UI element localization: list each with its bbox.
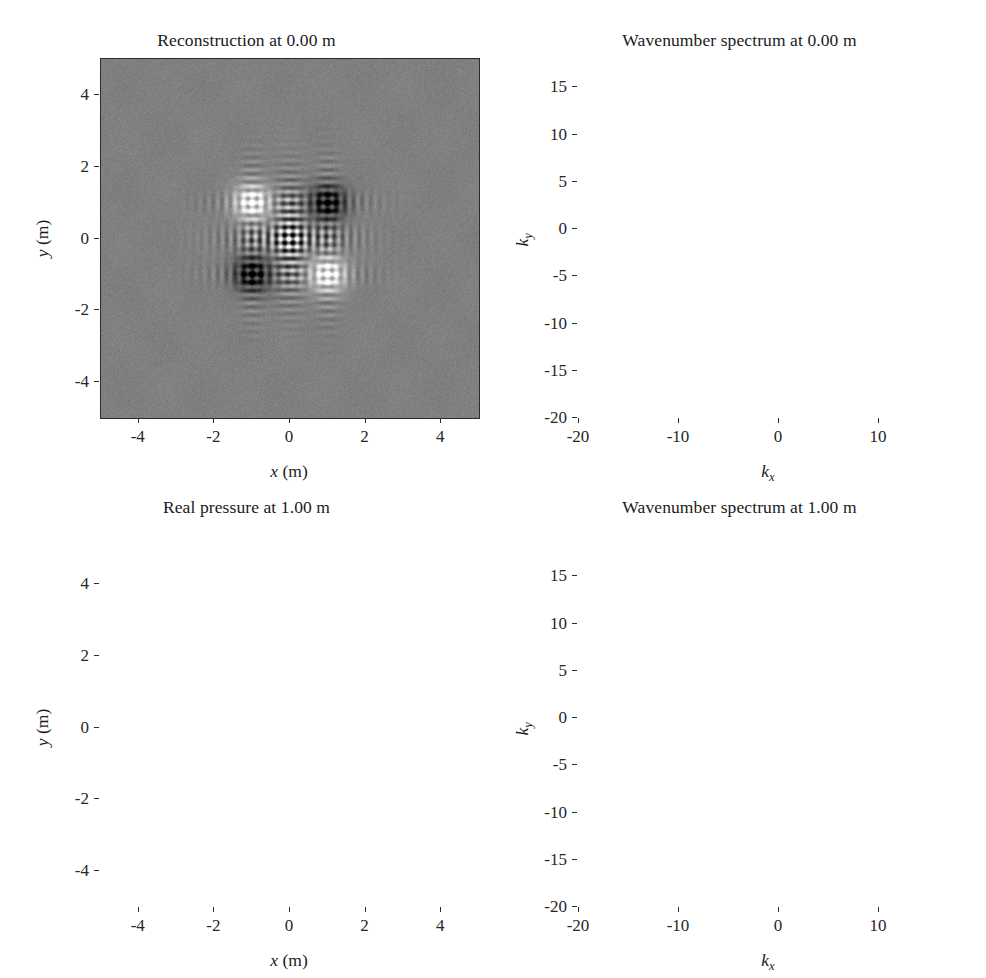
y-tick-mark: [572, 370, 577, 371]
panel-real-pressure-1m: Real pressure at 1.00 m: [0, 489, 493, 978]
x-tick-mark: [678, 418, 679, 423]
x-tick-mark: [578, 907, 579, 912]
panel-reconstruction-0m: Reconstruction at 0.00 m: [0, 0, 493, 489]
y-axis-label: y (m): [32, 218, 53, 258]
y-tick-label: -4: [75, 373, 89, 390]
x-tick-mark: [289, 418, 290, 423]
x-tick-mark: [365, 418, 366, 423]
y-tick-label: 15: [550, 78, 567, 95]
y-tick-label: 0: [81, 718, 90, 735]
x-tick-mark: [578, 418, 579, 423]
y-tick-mark: [572, 275, 577, 276]
y-tick-mark: [94, 94, 99, 95]
x-tick-mark: [678, 907, 679, 912]
x-tick-label: 0: [774, 428, 783, 445]
y-tick-label: 4: [81, 574, 90, 591]
y-tick-mark: [94, 166, 99, 167]
y-tick-label: 0: [81, 229, 90, 246]
figure-root: Reconstruction at 0.00 m Wavenumber spec…: [0, 0, 986, 978]
x-tick-mark: [878, 907, 879, 912]
panel-title: Wavenumber spectrum at 0.00 m: [493, 30, 986, 50]
x-tick-mark: [440, 418, 441, 423]
y-tick-label: -2: [75, 790, 89, 807]
y-tick-mark: [572, 134, 577, 135]
image-axes-reconstruction-0m: [100, 58, 480, 419]
x-axis-label: kx: [578, 950, 958, 974]
y-tick-label: -4: [75, 862, 89, 879]
x-tick-label: -2: [206, 917, 220, 934]
y-tick-mark: [572, 906, 577, 907]
y-tick-mark: [94, 381, 99, 382]
x-tick-label: -4: [131, 917, 145, 934]
x-tick-mark: [213, 418, 214, 423]
y-tick-mark: [94, 798, 99, 799]
y-tick-label: 15: [550, 567, 567, 584]
y-tick-label: 0: [559, 220, 568, 237]
x-tick-mark: [138, 418, 139, 423]
y-tick-mark: [94, 309, 99, 310]
panel-title: Reconstruction at 0.00 m: [0, 30, 493, 50]
y-tick-label: 5: [559, 661, 568, 678]
y-tick-mark: [572, 859, 577, 860]
x-axis-label: x (m): [100, 950, 478, 971]
x-tick-label: -20: [567, 428, 590, 445]
y-tick-mark: [572, 323, 577, 324]
y-tick-mark: [572, 764, 577, 765]
y-tick-label: 0: [559, 709, 568, 726]
y-tick-label: 5: [559, 172, 568, 189]
y-tick-mark: [94, 583, 99, 584]
y-tick-mark: [572, 86, 577, 87]
y-tick-mark: [572, 717, 577, 718]
y-tick-label: -10: [544, 803, 567, 820]
x-tick-label: -2: [206, 428, 220, 445]
x-tick-label: -20: [567, 917, 590, 934]
y-tick-mark: [94, 655, 99, 656]
x-tick-label: 0: [774, 917, 783, 934]
y-tick-label: 10: [550, 125, 567, 142]
x-tick-label: 4: [436, 917, 445, 934]
x-tick-label: 2: [360, 917, 369, 934]
y-axis-label: ky: [512, 708, 536, 748]
x-tick-mark: [289, 907, 290, 912]
y-tick-label: -15: [544, 850, 567, 867]
x-tick-mark: [440, 907, 441, 912]
x-axis-label: x (m): [100, 461, 478, 482]
x-tick-label: 2: [360, 428, 369, 445]
y-tick-label: -20: [544, 898, 567, 915]
x-tick-mark: [778, 907, 779, 912]
y-tick-label: 10: [550, 614, 567, 631]
y-tick-label: -5: [553, 756, 567, 773]
y-tick-label: 2: [81, 646, 90, 663]
x-tick-label: -10: [667, 917, 690, 934]
x-tick-label: 0: [285, 917, 294, 934]
y-tick-mark: [94, 870, 99, 871]
x-tick-mark: [138, 907, 139, 912]
y-tick-mark: [572, 417, 577, 418]
y-tick-label: -10: [544, 314, 567, 331]
x-tick-label: -4: [131, 428, 145, 445]
y-tick-label: -2: [75, 301, 89, 318]
y-tick-label: -5: [553, 267, 567, 284]
heatmap-image: [101, 59, 479, 418]
y-tick-label: -15: [544, 361, 567, 378]
x-tick-mark: [778, 418, 779, 423]
x-tick-label: 10: [870, 428, 887, 445]
y-tick-mark: [572, 670, 577, 671]
x-tick-mark: [213, 907, 214, 912]
y-tick-mark: [572, 623, 577, 624]
y-tick-mark: [572, 181, 577, 182]
x-tick-mark: [878, 418, 879, 423]
panel-title: Real pressure at 1.00 m: [0, 497, 493, 517]
y-tick-mark: [94, 727, 99, 728]
y-axis-label: ky: [512, 219, 536, 259]
x-tick-label: 10: [870, 917, 887, 934]
y-tick-mark: [572, 812, 577, 813]
y-tick-mark: [572, 228, 577, 229]
x-tick-label: -10: [667, 428, 690, 445]
panel-title: Wavenumber spectrum at 1.00 m: [493, 497, 986, 517]
x-tick-mark: [365, 907, 366, 912]
y-tick-mark: [94, 238, 99, 239]
y-axis-label: y (m): [32, 707, 53, 747]
y-tick-label: 4: [81, 85, 90, 102]
y-tick-label: 2: [81, 157, 90, 174]
